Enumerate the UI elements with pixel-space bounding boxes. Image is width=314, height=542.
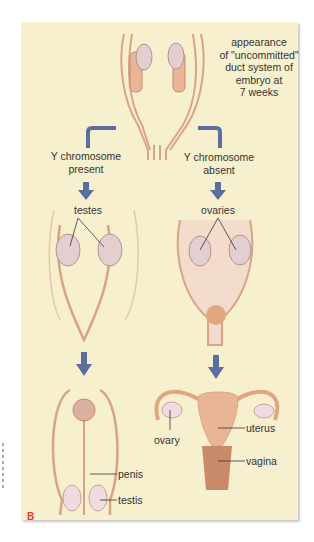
side-margin-marks: [2, 440, 6, 520]
y-absent-line-1: Y chromosome: [178, 151, 260, 164]
testes-label: testes: [68, 204, 108, 217]
caption-line-1: appearance: [218, 36, 300, 49]
y-present-line-1: Y chromosome: [46, 150, 126, 163]
y-absent-line-2: absent: [178, 164, 260, 177]
ovary-label: ovary: [154, 434, 180, 447]
y-present-line-2: present: [46, 163, 126, 176]
testes-stage: [49, 210, 138, 340]
figure-letter: B: [27, 511, 34, 522]
top-caption: appearance of "uncommitted" duct system …: [218, 36, 300, 99]
caption-line-2: of "uncommitted": [218, 49, 300, 62]
uterus-label: uterus: [246, 422, 275, 435]
y-present-label: Y chromosome present: [46, 150, 126, 175]
penis-label: penis: [118, 468, 143, 481]
ovaries-label: ovaries: [196, 204, 240, 217]
caption-line-4: embryo at: [218, 74, 300, 87]
testis-label: testis: [118, 494, 143, 507]
embryo-gonads: [130, 43, 185, 92]
caption-line-3: duct system of: [218, 61, 300, 74]
ovaries-stage: [178, 218, 253, 345]
vagina-label: vagina: [246, 455, 277, 468]
y-absent-label: Y chromosome absent: [178, 151, 260, 176]
caption-line-5: 7 weeks: [218, 86, 300, 99]
male-anatomy: [53, 390, 117, 515]
